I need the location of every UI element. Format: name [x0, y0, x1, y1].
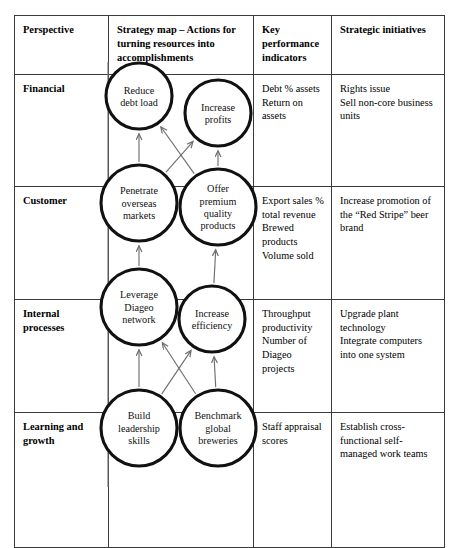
initiatives-cell-learning-and-growth: Establish cross-functional self-managed … [332, 413, 445, 548]
initiative-item: Integrate computers into one system [340, 334, 437, 361]
initiative-item: Sell non-core business units [340, 96, 437, 123]
table-row-internal-processes: Internal processes Throughput productivi… [15, 300, 445, 413]
kpi-item: Staff appraisal scores [262, 420, 324, 447]
balanced-scorecard: Perspective Strategy map – Actions for t… [14, 15, 444, 487]
header-strategy-map-label: Strategy map – Actions for turning resou… [117, 24, 236, 63]
perspective-label-financial: Financial [23, 83, 65, 94]
table-header-row: Perspective Strategy map – Actions for t… [15, 16, 445, 75]
initiative-item: Rights issue [340, 82, 437, 96]
header-perspective: Perspective [15, 16, 109, 75]
perspective-cell-learning-and-growth: Learning and growth [15, 413, 109, 548]
header-strategy-map: Strategy map – Actions for turning resou… [109, 16, 254, 75]
header-initiatives-label: Strategic initiatives [340, 24, 426, 35]
perspective-cell-internal-processes: Internal processes [15, 300, 109, 413]
header-perspective-label: Perspective [23, 24, 74, 35]
strategy-map-cell-internal-processes [109, 300, 254, 413]
initiative-item: Establish cross-functional self-managed … [340, 420, 437, 461]
strategy-map-cell-learning-and-growth [109, 413, 254, 548]
kpi-item: Brewed products Volume sold [262, 221, 324, 262]
header-initiatives: Strategic initiatives [332, 16, 445, 75]
initiative-item: Increase promotion of the “Red Stripe” b… [340, 194, 437, 235]
kpi-cell-financial: Debt % assets Return on assets [254, 75, 332, 187]
kpi-cell-customer: Export sales % total revenue Brewed prod… [254, 187, 332, 300]
header-kpi-label: Key performance indicators [262, 24, 319, 63]
perspective-label-customer: Customer [23, 195, 67, 206]
scorecard-table: Perspective Strategy map – Actions for t… [14, 15, 445, 548]
kpi-cell-learning-and-growth: Staff appraisal scores [254, 413, 332, 548]
strategy-map-cell-customer [109, 187, 254, 300]
table-row-customer: Customer Export sales % total revenue Br… [15, 187, 445, 300]
initiatives-cell-financial: Rights issue Sell non-core business unit… [332, 75, 445, 187]
strategy-map-cell-financial [109, 75, 254, 187]
perspective-cell-customer: Customer [15, 187, 109, 300]
perspective-label-internal-processes: Internal processes [23, 308, 64, 333]
initiative-item: Upgrade plant technology [340, 307, 437, 334]
table-row-learning-and-growth: Learning and growth Staff appraisal scor… [15, 413, 445, 548]
initiatives-cell-internal-processes: Upgrade plant technology Integrate compu… [332, 300, 445, 413]
kpi-item: Return on assets [262, 96, 324, 123]
kpi-cell-internal-processes: Throughput productivity Number of Diageo… [254, 300, 332, 413]
table-row-financial: Financial Debt % assets Return on assets… [15, 75, 445, 187]
initiatives-cell-customer: Increase promotion of the “Red Stripe” b… [332, 187, 445, 300]
perspective-cell-financial: Financial [15, 75, 109, 187]
kpi-item: Throughput productivity [262, 307, 324, 334]
perspective-label-learning-and-growth: Learning and growth [23, 421, 83, 446]
kpi-item: Number of Diageo projects [262, 334, 324, 375]
kpi-item: Debt % assets [262, 82, 324, 96]
header-kpi: Key performance indicators [254, 16, 332, 75]
kpi-item: Export sales % total revenue [262, 194, 324, 221]
